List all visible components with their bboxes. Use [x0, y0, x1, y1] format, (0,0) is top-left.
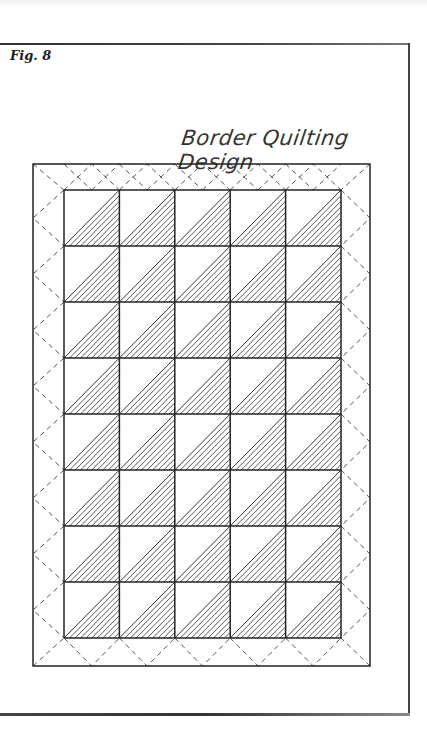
hatch-line — [186, 425, 230, 470]
border-dash-top — [119, 164, 147, 190]
hatch-line — [125, 476, 175, 526]
hatch-line — [208, 336, 230, 358]
hatch-line — [186, 313, 230, 358]
hatch-line — [169, 464, 175, 470]
border-dash-top — [203, 164, 231, 190]
hatched-triangle — [64, 414, 119, 470]
hatch-line — [203, 554, 231, 582]
hatch-line — [70, 364, 120, 414]
hatch-line — [92, 442, 120, 470]
hatch-line — [147, 554, 175, 582]
border-dash-right — [341, 414, 370, 470]
hatch-line — [297, 593, 341, 638]
hatch-line — [241, 201, 285, 246]
hatch-line — [147, 274, 175, 302]
hatch-line — [297, 481, 341, 526]
hatch-line — [219, 291, 230, 302]
hatch-line — [258, 498, 286, 526]
hatch-line — [225, 632, 231, 638]
hatch-line — [225, 240, 231, 246]
hatch-line — [225, 352, 231, 358]
hatch-line — [263, 448, 285, 470]
border-dash-right — [341, 526, 370, 582]
hatched-triangle — [119, 414, 174, 470]
hatch-line — [313, 554, 341, 582]
hatched-triangle — [286, 246, 341, 302]
border-dash-left — [33, 190, 64, 246]
hatched-triangle — [64, 246, 119, 302]
hatch-line — [70, 420, 120, 470]
hatch-line — [147, 386, 175, 414]
border-dash-bottom — [175, 638, 230, 666]
hatch-line — [219, 515, 230, 526]
hatch-line — [164, 403, 175, 414]
hatch-line — [258, 218, 286, 246]
hatch-line — [153, 392, 175, 414]
hatch-line — [92, 274, 120, 302]
border-dash-top — [286, 164, 314, 190]
hatch-line — [297, 201, 341, 246]
hatch-line — [108, 347, 119, 358]
hatch-line — [236, 420, 286, 470]
hatch-line — [330, 235, 341, 246]
hatch-line — [114, 576, 120, 582]
hatch-line — [263, 504, 285, 526]
hatch-line — [97, 336, 119, 358]
hatch-line — [291, 308, 341, 358]
border-dash-bottom — [230, 638, 285, 666]
hatch-line — [186, 593, 230, 638]
hatch-line — [70, 476, 120, 526]
hatch-line — [180, 420, 230, 470]
hatch-line — [186, 257, 230, 302]
hatch-line — [130, 593, 174, 638]
hatch-line — [108, 235, 119, 246]
hatch-line — [319, 224, 341, 246]
hatch-line — [180, 588, 230, 638]
hatch-line — [153, 448, 175, 470]
border-dash-right — [341, 582, 370, 638]
hatch-line — [280, 408, 286, 414]
hatch-line — [335, 352, 341, 358]
border-dash-top — [258, 164, 286, 190]
hatch-line — [203, 274, 231, 302]
hatch-line — [236, 252, 286, 302]
hatch-line — [280, 576, 286, 582]
border-dash-top — [230, 164, 258, 190]
hatch-line — [164, 291, 175, 302]
hatch-line — [241, 425, 285, 470]
hatch-line — [125, 532, 175, 582]
hatch-line — [313, 498, 341, 526]
hatch-line — [125, 588, 175, 638]
border-dash-right — [341, 470, 370, 526]
hatched-triangle — [175, 526, 230, 582]
hatch-line — [130, 425, 174, 470]
hatch-line — [225, 296, 231, 302]
hatch-line — [330, 627, 341, 638]
hatch-line — [313, 442, 341, 470]
hatch-line — [70, 308, 120, 358]
hatched-triangle — [230, 526, 285, 582]
hatch-line — [330, 347, 341, 358]
hatch-line — [186, 481, 230, 526]
hatch-line — [291, 196, 341, 246]
hatch-line — [180, 476, 230, 526]
hatch-line — [97, 224, 119, 246]
hatch-line — [208, 280, 230, 302]
hatch-line — [114, 632, 120, 638]
hatch-line — [75, 201, 119, 246]
hatched-triangle — [64, 582, 119, 638]
hatch-line — [241, 257, 285, 302]
hatch-line — [258, 330, 286, 358]
hatched-triangle — [230, 302, 285, 358]
hatch-line — [225, 408, 231, 414]
hatched-triangle — [175, 582, 230, 638]
hatch-line — [291, 420, 341, 470]
hatch-line — [335, 240, 341, 246]
hatch-line — [92, 610, 120, 638]
hatch-line — [203, 498, 231, 526]
hatch-line — [169, 632, 175, 638]
hatch-line — [236, 588, 286, 638]
hatched-triangle — [230, 470, 285, 526]
hatch-line — [297, 313, 341, 358]
hatch-line — [203, 330, 231, 358]
